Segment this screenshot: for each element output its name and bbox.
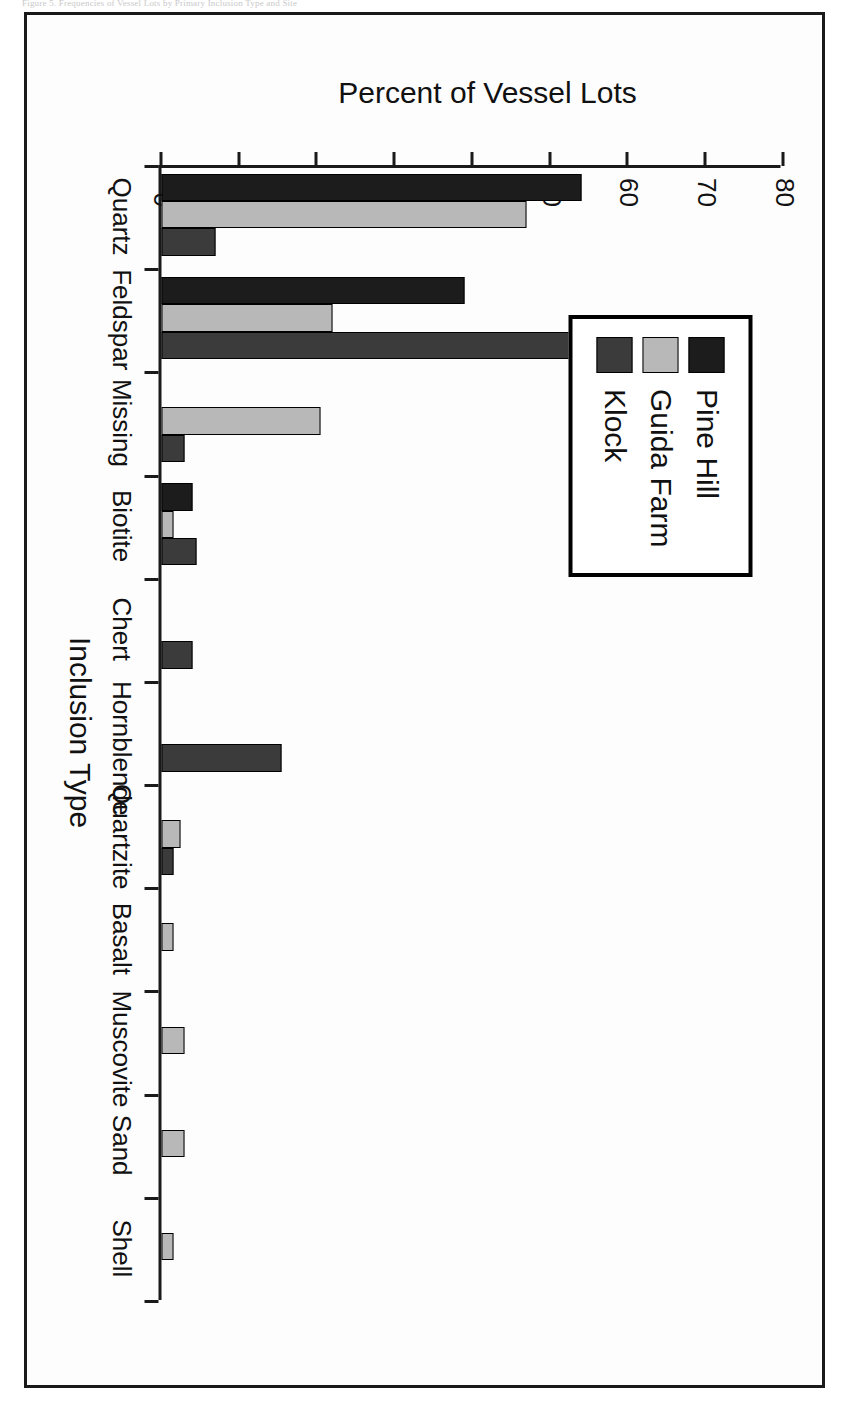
bar-group [161, 784, 783, 887]
bar-group [161, 990, 783, 1093]
category-label-chert: Chert [106, 578, 136, 681]
legend-label: Klock [597, 389, 631, 462]
legend-swatch-icon [596, 337, 632, 373]
category-tick [144, 887, 158, 890]
bar [161, 435, 184, 462]
category-label-biotite: Biotite [106, 475, 136, 578]
legend-label: Pine Hill [689, 389, 723, 499]
category-tick [144, 784, 158, 787]
bar [161, 538, 196, 565]
bar [161, 744, 282, 771]
bar [161, 407, 320, 434]
figure-caption: Figure 5. Frequencies of Vessel Lots by … [22, 0, 522, 10]
chart-legend: Pine HillGuida FarmKlock [568, 315, 752, 577]
category-tick [144, 1197, 158, 1200]
figure-frame: 01020304050607080 QuartzFeldsparMissingB… [24, 12, 825, 1388]
category-tick [144, 165, 158, 168]
category-tick [144, 990, 158, 993]
bar-group [161, 1197, 783, 1300]
legend-item: Guida Farm [642, 337, 678, 547]
bar [161, 483, 192, 510]
category-tick [144, 681, 158, 684]
bar [161, 304, 332, 331]
category-label-quartz: Quartz [106, 165, 136, 268]
bar [161, 1130, 184, 1157]
bar [161, 1027, 184, 1054]
bar-group [161, 165, 783, 268]
legend-swatch-icon [642, 337, 678, 373]
value-axis-title: Percent of Vessel Lots [177, 76, 797, 110]
bar [161, 201, 526, 228]
bar-group [161, 887, 783, 990]
category-label-hornblende: Hornblende [106, 681, 136, 784]
legend-item: Klock [596, 337, 632, 547]
category-label-basalt: Basalt [106, 887, 136, 990]
category-label-shell: Shell [106, 1197, 136, 1300]
category-label-missing: Missing [106, 371, 136, 474]
category-axis-title: Inclusion Type [62, 165, 96, 1300]
legend-label: Guida Farm [643, 389, 677, 547]
bar-group [161, 681, 783, 784]
category-tick [144, 1094, 158, 1097]
category-tick [144, 371, 158, 374]
bar [161, 641, 192, 668]
bar [161, 848, 173, 875]
bar-group [161, 578, 783, 681]
category-label-feldspar: Feldspar [106, 268, 136, 371]
bar [161, 228, 215, 255]
bar [161, 174, 581, 201]
legend-swatch-icon [688, 337, 724, 373]
category-tick [144, 268, 158, 271]
bar [161, 1233, 173, 1260]
category-label-sand: Sand [106, 1094, 136, 1197]
category-label-quartzite: Quartzite [106, 784, 136, 887]
bar [161, 923, 173, 950]
category-tick [144, 1300, 158, 1303]
bar [161, 277, 464, 304]
bar [161, 511, 173, 538]
rotated-chart-canvas: 01020304050607080 QuartzFeldsparMissingB… [27, 15, 822, 1385]
bar-group [161, 1094, 783, 1197]
category-label-muscovite: Muscovite [106, 990, 136, 1093]
bar [161, 820, 180, 847]
plot-area: 01020304050607080 QuartzFeldsparMissingB… [27, 15, 822, 1385]
category-tick [144, 578, 158, 581]
legend-item: Pine Hill [688, 337, 724, 547]
category-tick [144, 475, 158, 478]
